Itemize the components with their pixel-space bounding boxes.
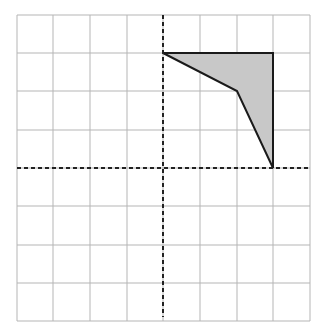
coordinate-grid-diagram xyxy=(0,0,324,336)
grid-canvas xyxy=(0,0,324,336)
shaded-quadrilateral xyxy=(163,53,273,168)
